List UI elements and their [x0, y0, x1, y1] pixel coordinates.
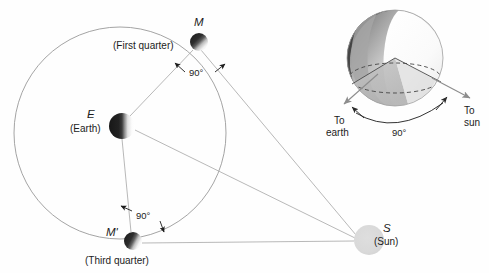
globe-angle-arrow-left [352, 107, 364, 118]
moon-third-quarter-body [124, 232, 142, 250]
to-earth-label-line2: earth [326, 127, 349, 138]
angle-marker-first-quarter: 90° [175, 63, 225, 78]
moon-first-quarter-body [190, 33, 208, 51]
earth-caption-label: (Earth) [70, 123, 101, 134]
moon-first-quarter-caption-label: (First quarter) [113, 40, 174, 51]
earth-to-moon-first-quarter [130, 50, 193, 116]
globe-angle-label: 90° [392, 127, 407, 138]
sight-lines-group [122, 50, 356, 243]
to-earth-label-line1: To [334, 115, 345, 126]
to-sun-label-line2: sun [464, 117, 480, 128]
angle-label-third-quarter: 90° [136, 210, 151, 221]
moon-first-quarter-symbol-label: M [194, 16, 204, 28]
moon-third-quarter-caption-label: (Third quarter) [85, 255, 149, 266]
moon-terminator-globe: 90° To earth To sun [326, 8, 480, 138]
moon-third-quarter-to-sun [142, 241, 354, 243]
globe-angle-arrow-right [436, 97, 447, 110]
astronomy-diagram: S (Sun) E (Earth) M (First quarter) 90° … [0, 0, 489, 273]
sun-caption-label: (Sun) [374, 236, 398, 247]
earth-body [109, 113, 135, 139]
earth-to-sun [135, 130, 355, 238]
diagram-canvas: S (Sun) E (Earth) M (First quarter) 90° … [0, 0, 489, 273]
sun-symbol-label: S [383, 222, 391, 234]
moon-third-quarter-symbol-label: M' [106, 226, 119, 238]
earth-to-moon-third-quarter [122, 139, 131, 232]
earth-symbol-label: E [87, 108, 95, 120]
to-sun-arrow [432, 78, 470, 98]
moon-first-quarter-to-sun [201, 50, 356, 235]
to-sun-label-line1: To [464, 105, 475, 116]
angle-marker-third-quarter: 90° [121, 206, 164, 232]
angle-label-first-quarter: 90° [189, 67, 204, 78]
